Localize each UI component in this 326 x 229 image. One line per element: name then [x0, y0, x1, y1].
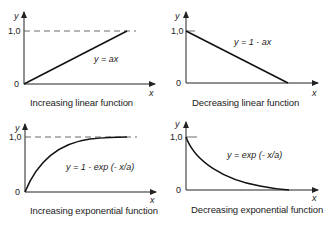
y-tick-one: 1,0	[170, 132, 183, 142]
x-axis-label: x	[311, 88, 317, 98]
equation-label: y = 1 - exp (- x/a)	[65, 162, 134, 172]
equation-label: y = exp (- x/a)	[226, 150, 282, 160]
equation-label: y = 1 - ax	[233, 37, 272, 47]
panel-caption: Increasing exponential function	[30, 205, 158, 216]
panel-decreasing-linear: y x 1,0 0 y = 1 - ax Decreasing linear f…	[171, 11, 318, 108]
y-tick-one: 1,0	[9, 132, 22, 142]
y-axis-label: y	[174, 11, 180, 21]
y-axis-label: y	[174, 119, 180, 129]
y-tick-one: 1,0	[171, 26, 184, 36]
y-tick-zero: 0	[15, 187, 20, 197]
x-axis-label: x	[148, 88, 154, 98]
panel-increasing-exponential: y x 1,0 0 y = 1 - exp (- x/a) Increasing…	[9, 123, 158, 216]
panel-caption: Decreasing linear function	[192, 97, 299, 108]
y-tick-zero: 0	[14, 79, 19, 89]
panel-caption: Increasing linear function	[30, 97, 133, 108]
y-tick-one: 1,0	[8, 26, 21, 36]
panel-decreasing-exponential: y x 1,0 0 y = exp (- x/a) Decreasing exp…	[170, 119, 323, 215]
panel-caption: Decreasing exponential function	[191, 204, 323, 215]
panel-increasing-linear: y x 1,0 0 y = ax Increasing linear funct…	[8, 11, 155, 108]
x-axis-label: x	[149, 195, 155, 205]
function-diagram: y x 1,0 0 y = ax Increasing linear funct…	[0, 0, 326, 229]
function-curve	[186, 137, 289, 190]
x-axis-label: x	[311, 193, 317, 203]
equation-label: y = ax	[93, 54, 119, 64]
y-axis-label: y	[13, 11, 19, 21]
y-tick-zero: 0	[176, 185, 181, 195]
y-tick-zero: 0	[176, 78, 181, 88]
